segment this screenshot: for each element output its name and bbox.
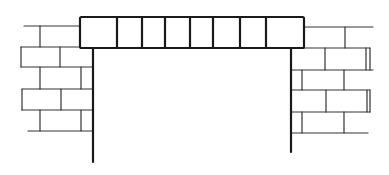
lintel-outline [80,17,304,48]
lintel-diagram [0,0,389,175]
brick-wall-drawing [0,0,389,175]
lintel [80,17,304,48]
